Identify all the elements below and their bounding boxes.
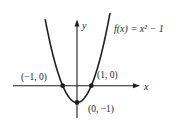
left-intercept-label: (−1, 0): [21, 72, 47, 83]
point-dot-left-intercept: [60, 83, 65, 88]
point-dot-vertex: [75, 100, 80, 105]
function-graph-figure: y x f(x) = x² − 1 (−1, 0) (1, 0) (0, −1): [0, 0, 181, 123]
parabola-curve: [45, 14, 110, 103]
function-label: f(x) = x² − 1: [114, 23, 164, 35]
right-intercept-label: (1, 0): [97, 70, 118, 81]
point-dot-right-intercept: [89, 83, 94, 88]
vertex-label: (0, −1): [88, 104, 114, 115]
y-axis-arrowhead: [75, 20, 80, 27]
x-axis-label: x: [143, 81, 149, 92]
x-axis-arrowhead: [133, 83, 140, 88]
y-axis-label: y: [81, 20, 87, 31]
plot-canvas: y x f(x) = x² − 1 (−1, 0) (1, 0) (0, −1): [0, 0, 181, 123]
